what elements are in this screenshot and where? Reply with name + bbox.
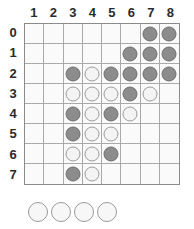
board-cell-r6-c4[interactable] bbox=[83, 144, 102, 164]
board-cell-r7-c7[interactable] bbox=[141, 164, 160, 184]
board-cell-r2-c1[interactable] bbox=[25, 64, 44, 84]
black-disc bbox=[104, 146, 119, 161]
black-disc bbox=[162, 26, 177, 41]
reversi-board-panel: 1 2 3 4 5 6 7 8 0 1 2 3 4 5 6 7 bbox=[0, 0, 194, 229]
white-disc bbox=[84, 106, 99, 121]
board-cell-r3-c3[interactable] bbox=[64, 84, 83, 104]
board-cell-r5-c6[interactable] bbox=[121, 124, 140, 144]
board-cell-r7-c6[interactable] bbox=[121, 164, 140, 184]
board-cell-r0-c4[interactable] bbox=[83, 24, 102, 44]
board-cell-r0-c6[interactable] bbox=[121, 24, 140, 44]
board-cell-r0-c5[interactable] bbox=[102, 24, 121, 44]
board-cell-r6-c2[interactable] bbox=[44, 144, 63, 164]
board-cell-r4-c2[interactable] bbox=[44, 104, 63, 124]
board-cell-r0-c2[interactable] bbox=[44, 24, 63, 44]
board-cell-r6-c5[interactable] bbox=[102, 144, 121, 164]
black-disc bbox=[123, 46, 138, 61]
black-disc bbox=[123, 86, 138, 101]
board-cell-r3-c6[interactable] bbox=[121, 84, 140, 104]
black-disc bbox=[142, 66, 157, 81]
board-cell-r7-c2[interactable] bbox=[44, 164, 63, 184]
black-disc bbox=[65, 66, 80, 81]
board-cell-r5-c7[interactable] bbox=[141, 124, 160, 144]
board-cell-r3-c8[interactable] bbox=[160, 84, 179, 104]
board-cell-r1-c5[interactable] bbox=[102, 44, 121, 64]
row-header-7: 7 bbox=[4, 165, 22, 185]
board-cell-r5-c8[interactable] bbox=[160, 124, 179, 144]
board-cell-r3-c5[interactable] bbox=[102, 84, 121, 104]
board-cell-r2-c5[interactable] bbox=[102, 64, 121, 84]
board-cell-r1-c8[interactable] bbox=[160, 44, 179, 64]
board-cell-r1-c2[interactable] bbox=[44, 44, 63, 64]
black-disc bbox=[123, 66, 138, 81]
board-cell-r6-c3[interactable] bbox=[64, 144, 83, 164]
board-cell-r2-c4[interactable] bbox=[83, 64, 102, 84]
white-disc bbox=[84, 86, 99, 101]
tray-white-disc-3[interactable] bbox=[74, 202, 94, 222]
board-cell-r0-c1[interactable] bbox=[25, 24, 44, 44]
column-header-row: 1 2 3 4 5 6 7 8 bbox=[24, 4, 180, 22]
board-cell-r2-c6[interactable] bbox=[121, 64, 140, 84]
row-header-6: 6 bbox=[4, 145, 22, 165]
black-disc bbox=[65, 106, 80, 121]
white-disc bbox=[142, 86, 157, 101]
board-cell-r2-c2[interactable] bbox=[44, 64, 63, 84]
column-header-3: 3 bbox=[63, 4, 83, 22]
board-cell-r3-c4[interactable] bbox=[83, 84, 102, 104]
board-cell-r6-c8[interactable] bbox=[160, 144, 179, 164]
board-cell-r7-c8[interactable] bbox=[160, 164, 179, 184]
board-cell-r4-c8[interactable] bbox=[160, 104, 179, 124]
row-header-column: 0 1 2 3 4 5 6 7 bbox=[4, 23, 22, 185]
board-cell-r7-c1[interactable] bbox=[25, 164, 44, 184]
board-cell-r2-c7[interactable] bbox=[141, 64, 160, 84]
row-header-4: 4 bbox=[4, 104, 22, 124]
board-cell-r1-c4[interactable] bbox=[83, 44, 102, 64]
board-cell-r0-c7[interactable] bbox=[141, 24, 160, 44]
board-cell-r1-c6[interactable] bbox=[121, 44, 140, 64]
board-cell-r5-c5[interactable] bbox=[102, 124, 121, 144]
tray-white-disc-4[interactable] bbox=[97, 202, 117, 222]
board-cell-r0-c8[interactable] bbox=[160, 24, 179, 44]
board-cell-r4-c1[interactable] bbox=[25, 104, 44, 124]
tray-white-disc-1[interactable] bbox=[28, 202, 48, 222]
board-cell-r5-c1[interactable] bbox=[25, 124, 44, 144]
board-cell-r6-c1[interactable] bbox=[25, 144, 44, 164]
board-cell-r7-c4[interactable] bbox=[83, 164, 102, 184]
black-disc bbox=[65, 167, 80, 182]
board-cell-r0-c3[interactable] bbox=[64, 24, 83, 44]
white-disc bbox=[84, 126, 99, 141]
board-cell-r4-c4[interactable] bbox=[83, 104, 102, 124]
board-cell-r3-c2[interactable] bbox=[44, 84, 63, 104]
board-cell-r5-c3[interactable] bbox=[64, 124, 83, 144]
captured-disc-tray bbox=[28, 200, 117, 224]
board-cell-r4-c3[interactable] bbox=[64, 104, 83, 124]
board-cell-r5-c2[interactable] bbox=[44, 124, 63, 144]
tray-white-disc-2[interactable] bbox=[51, 202, 71, 222]
row-header-2: 2 bbox=[4, 64, 22, 84]
black-disc bbox=[162, 46, 177, 61]
board-cell-r6-c6[interactable] bbox=[121, 144, 140, 164]
board-cell-r2-c3[interactable] bbox=[64, 64, 83, 84]
board-cell-r5-c4[interactable] bbox=[83, 124, 102, 144]
row-header-5: 5 bbox=[4, 124, 22, 144]
column-header-5: 5 bbox=[102, 4, 122, 22]
board-cell-r2-c8[interactable] bbox=[160, 64, 179, 84]
board-cell-r1-c1[interactable] bbox=[25, 44, 44, 64]
board-cell-r4-c7[interactable] bbox=[141, 104, 160, 124]
board-cell-r1-c3[interactable] bbox=[64, 44, 83, 64]
board-cell-r4-c6[interactable] bbox=[121, 104, 140, 124]
board-cell-r7-c3[interactable] bbox=[64, 164, 83, 184]
board-cell-r3-c7[interactable] bbox=[141, 84, 160, 104]
board-cell-r7-c5[interactable] bbox=[102, 164, 121, 184]
board-cell-r1-c7[interactable] bbox=[141, 44, 160, 64]
black-disc bbox=[65, 126, 80, 141]
game-board-grid[interactable] bbox=[24, 23, 180, 185]
board-cell-r6-c7[interactable] bbox=[141, 144, 160, 164]
board-cell-r4-c5[interactable] bbox=[102, 104, 121, 124]
black-disc bbox=[104, 66, 119, 81]
black-disc bbox=[142, 26, 157, 41]
black-disc bbox=[104, 106, 119, 121]
board-cell-r3-c1[interactable] bbox=[25, 84, 44, 104]
row-header-1: 1 bbox=[4, 43, 22, 63]
white-disc bbox=[84, 66, 99, 81]
